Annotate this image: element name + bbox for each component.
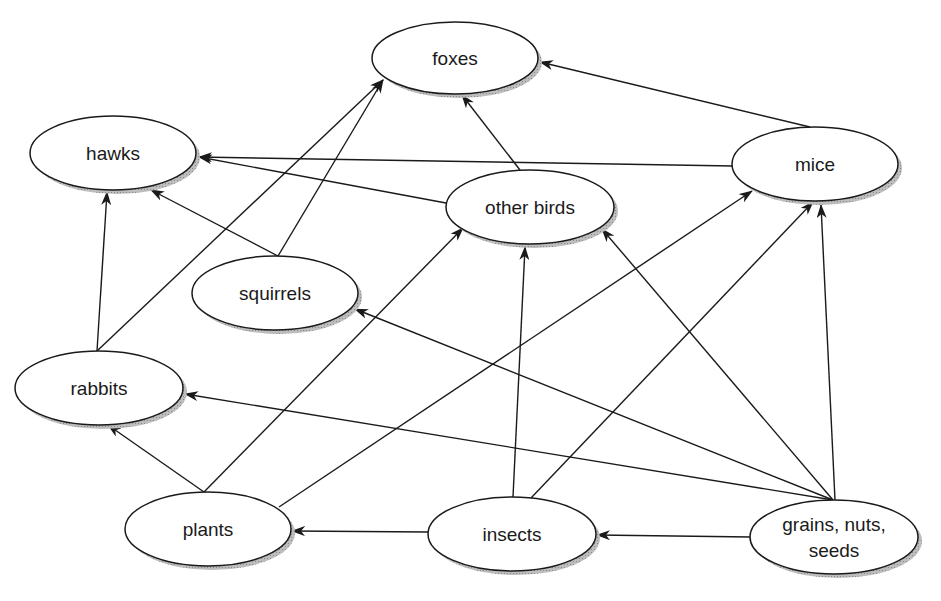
node-label: insects — [482, 524, 541, 545]
edge-grains-to-rabbits — [185, 394, 833, 500]
node-foxes: foxes — [372, 22, 542, 98]
edge-other-birds-to-foxes — [462, 95, 520, 170]
node-label: grains, nuts, — [782, 514, 886, 535]
node-mice: mice — [732, 127, 902, 205]
node-label: hawks — [86, 143, 140, 164]
edge-grains-to-other-birds — [602, 229, 833, 500]
edge-squirrels-to-foxes — [278, 80, 383, 256]
node-label: seeds — [809, 540, 860, 561]
node-plants: plants — [125, 492, 295, 570]
edge-grains-to-insects — [597, 535, 751, 537]
node-insects: insects — [428, 497, 600, 575]
edge-other-birds-to-hawks — [199, 157, 446, 203]
node-label: squirrels — [239, 283, 311, 304]
edge-insects-to-plants — [292, 531, 428, 532]
node-label: plants — [183, 519, 234, 540]
edge-plants-to-rabbits — [108, 425, 204, 492]
node-hawks: hawks — [30, 116, 200, 194]
edge-grains-to-mice — [821, 205, 835, 500]
edge-insects-to-mice — [531, 202, 813, 498]
node-other-birds: other birds — [446, 170, 618, 248]
node-label: foxes — [432, 48, 477, 69]
node-label: other birds — [485, 197, 575, 218]
node-rabbits: rabbits — [15, 351, 187, 429]
node-ellipse — [750, 500, 918, 574]
edge-rabbits-to-hawks — [97, 192, 107, 351]
node-grains: grains, nuts,seeds — [750, 500, 922, 578]
node-label: rabbits — [70, 378, 127, 399]
food-web-diagram: foxeshawksmiceother birdssquirrelsrabbit… — [0, 0, 941, 601]
edge-grains-to-squirrels — [355, 309, 833, 500]
edge-mice-to-foxes — [540, 62, 810, 127]
edge-insects-to-other-birds — [513, 247, 525, 497]
edge-mice-to-hawks — [199, 157, 733, 166]
node-squirrels: squirrels — [192, 256, 362, 334]
node-label: mice — [795, 154, 835, 175]
edge-squirrels-to-hawks — [151, 190, 278, 256]
